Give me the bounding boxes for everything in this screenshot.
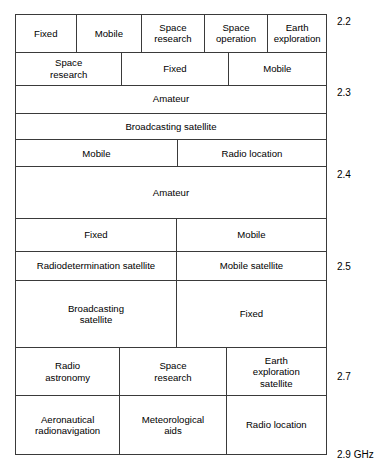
band-cell-fixed: Fixed bbox=[177, 281, 326, 348]
band-cell-radio-astronomy: Radio astronomy bbox=[16, 348, 120, 395]
band-cell-space-research: Space research bbox=[120, 348, 226, 395]
band-cell-meteorological-aids: Meteorological aids bbox=[120, 396, 226, 454]
band-row: Amateur bbox=[16, 167, 326, 219]
band-cell-radio-location: Radio location bbox=[227, 396, 326, 454]
band-cell-aeronautical-radionavigation: Aeronautical radionavigation bbox=[16, 396, 120, 454]
axis-tick-label-2-4: 2.4 bbox=[337, 169, 351, 180]
band-cell-mobile: Mobile bbox=[229, 53, 326, 85]
axis-tick-label-2-2: 2.2 bbox=[337, 16, 351, 27]
band-row: Fixed Mobile bbox=[16, 219, 326, 252]
frequency-allocation-chart: Fixed Mobile Space research Space operat… bbox=[0, 0, 387, 473]
axis-tick-label-2-7: 2.7 bbox=[337, 371, 351, 382]
band-cell-fixed: Fixed bbox=[16, 15, 77, 52]
band-row: Space research Fixed Mobile bbox=[16, 53, 326, 86]
axis-tick-label-2-3: 2.3 bbox=[337, 87, 351, 98]
spectrum-allocation-table: Fixed Mobile Space research Space operat… bbox=[15, 14, 327, 455]
band-cell-mobile: Mobile bbox=[177, 219, 326, 251]
band-cell-mobile: Mobile bbox=[77, 15, 143, 52]
band-cell-broadcasting-satellite: Broadcasting satellite bbox=[16, 114, 326, 140]
band-row: Radiodetermination satellite Mobile sate… bbox=[16, 252, 326, 281]
band-row: Broadcasting satellite bbox=[16, 114, 326, 141]
band-row: Broadcasting satellite Fixed bbox=[16, 281, 326, 349]
axis-tick-label-2-9-ghz: 2.9 GHz bbox=[337, 449, 374, 460]
band-cell-radiodetermination-satellite: Radiodetermination satellite bbox=[16, 252, 177, 280]
band-row: Fixed Mobile Space research Space operat… bbox=[16, 15, 326, 53]
band-row: Radio astronomy Space research Earth exp… bbox=[16, 348, 326, 396]
band-cell-mobile-satellite: Mobile satellite bbox=[177, 252, 326, 280]
band-row: Amateur bbox=[16, 86, 326, 114]
band-cell-earth-exploration: Earth exploration bbox=[268, 15, 326, 52]
band-cell-earth-exploration-satellite: Earth exploration satellite bbox=[227, 348, 326, 395]
band-cell-space-research: Space research bbox=[142, 15, 205, 52]
band-cell-amateur: Amateur bbox=[16, 86, 326, 113]
band-cell-space-operation: Space operation bbox=[205, 15, 269, 52]
axis-tick-label-2-5: 2.5 bbox=[337, 261, 351, 272]
band-cell-fixed: Fixed bbox=[122, 53, 228, 85]
band-cell-broadcasting-satellite: Broadcasting satellite bbox=[16, 281, 177, 348]
band-cell-space-research: Space research bbox=[16, 53, 122, 85]
band-cell-amateur: Amateur bbox=[16, 167, 326, 218]
band-row: Mobile Radio location bbox=[16, 140, 326, 167]
band-cell-fixed: Fixed bbox=[16, 219, 177, 251]
band-cell-radio-location: Radio location bbox=[178, 140, 326, 166]
band-cell-mobile: Mobile bbox=[16, 140, 178, 166]
band-row: Aeronautical radionavigation Meteorologi… bbox=[16, 396, 326, 454]
